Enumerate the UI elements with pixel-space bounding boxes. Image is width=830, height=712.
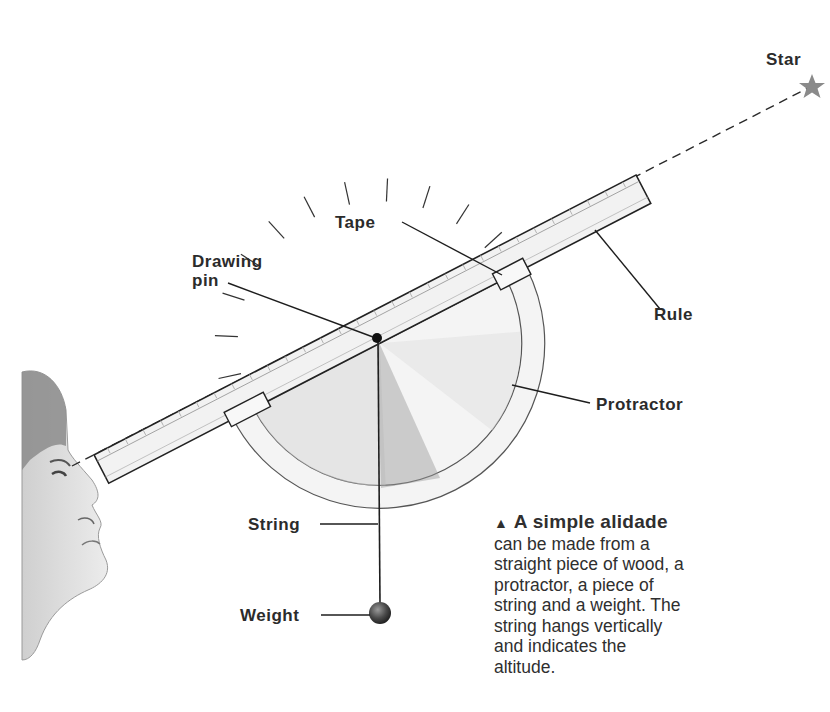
- rule-label: Rule: [654, 305, 693, 324]
- caption-line: straight piece of wood, a: [494, 554, 824, 575]
- protractor-label: Protractor: [596, 395, 683, 414]
- drawing-pin: [372, 333, 382, 343]
- tape-leader: [402, 222, 502, 275]
- caption-line: string hangs vertically: [494, 616, 824, 637]
- caption-line: can be made from a: [494, 534, 824, 555]
- caption-heading: A simple alidade: [514, 511, 668, 532]
- star-icon: [799, 74, 825, 98]
- caption-line: string and a weight. The: [494, 595, 824, 616]
- caption-line: protractor, a piece of: [494, 575, 824, 596]
- weight-label: Weight: [240, 606, 299, 625]
- string-label: String: [248, 515, 300, 534]
- drawing-pin-label-line1: Drawing: [192, 252, 263, 271]
- pin-leader: [228, 283, 373, 337]
- star-label: Star: [766, 50, 801, 69]
- caption: ▲A simple alidade can be made from a str…: [494, 512, 824, 677]
- drawing-pin-label-line2: pin: [192, 271, 219, 290]
- caption-line: and indicates the: [494, 636, 824, 657]
- observer-face: [22, 371, 108, 660]
- tape-label: Tape: [335, 213, 375, 232]
- plumb-weight: [369, 602, 391, 624]
- caption-line: altitude.: [494, 657, 824, 678]
- triangle-marker-icon: ▲: [494, 515, 508, 531]
- rule-leader: [595, 230, 660, 309]
